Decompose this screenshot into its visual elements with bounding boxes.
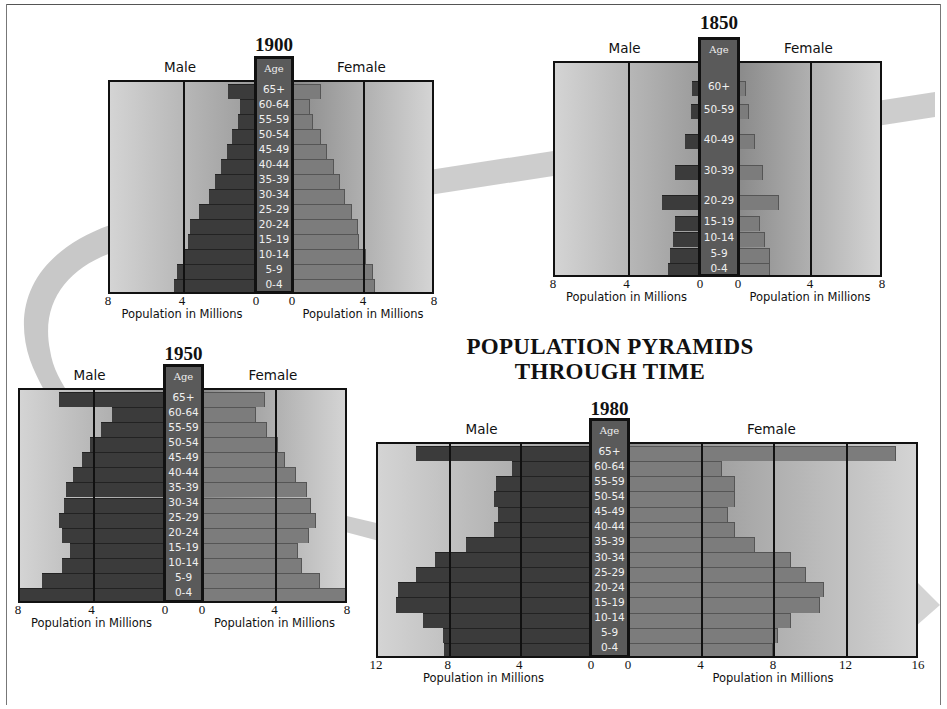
female-tick-label: 12: [839, 657, 852, 673]
female-tick-label: 4: [697, 657, 704, 673]
age-group-label: 40-44: [592, 520, 627, 532]
male-gridline: [93, 390, 95, 601]
age-column: Age65+60-6455-5950-5445-4940-4435-3930-3…: [163, 364, 204, 603]
female-bar: [628, 613, 791, 628]
age-group-label: 10-14: [592, 611, 627, 623]
female-header: Female: [784, 40, 833, 56]
age-group-label: 40-44: [166, 466, 201, 478]
pyramid-year-title: 1850: [680, 12, 758, 34]
female-bar: [202, 422, 267, 437]
male-axis-title: Population in Millions: [566, 290, 687, 304]
age-group-label: 15-19: [701, 215, 737, 227]
female-bar: [738, 216, 760, 231]
male-axis-title: Population in Millions: [423, 671, 544, 685]
female-gridline: [701, 444, 703, 656]
male-bar: [64, 498, 167, 513]
age-group-label: 65+: [166, 391, 201, 403]
female-tick-label: 16: [912, 657, 925, 673]
female-tick-label: 0: [625, 657, 632, 673]
male-bar: [496, 476, 593, 491]
male-bar: [90, 437, 167, 452]
age-group-label: 15-19: [257, 233, 291, 245]
age-group-label: 10-14: [257, 248, 291, 260]
female-bar: [628, 537, 755, 552]
male-bar: [184, 249, 258, 264]
male-bar: [435, 552, 593, 567]
male-bar: [42, 573, 167, 588]
pyramid-year-title: 1900: [236, 34, 312, 56]
age-group-label: 40-49: [701, 133, 737, 145]
male-plot-area: [108, 80, 258, 294]
male-header: Male: [164, 59, 196, 75]
male-axis-title: Population in Millions: [31, 616, 152, 630]
female-plot-area: [626, 442, 918, 658]
male-bar: [494, 491, 593, 506]
male-bar: [66, 482, 167, 497]
age-group-label: 50-54: [166, 436, 201, 448]
male-bar: [62, 558, 167, 573]
age-group-label: 40-44: [257, 158, 291, 170]
female-bar: [628, 461, 722, 476]
male-bar: [190, 219, 258, 234]
female-bar: [292, 84, 321, 99]
age-group-label: 60-64: [592, 460, 627, 472]
male-gridline: [628, 63, 630, 275]
female-bar: [202, 543, 298, 558]
age-group-label: 5-9: [701, 247, 737, 259]
male-bar: [188, 234, 258, 249]
male-plot-area: [18, 388, 167, 603]
male-header: Male: [74, 367, 106, 383]
female-bar: [202, 498, 311, 513]
age-group-label: 25-29: [166, 511, 201, 523]
age-group-label: 35-39: [166, 481, 201, 493]
female-bar: [628, 491, 735, 506]
age-group-label: 55-59: [257, 113, 291, 125]
female-bar: [628, 507, 728, 522]
male-tick-label: 12: [370, 657, 383, 673]
female-axis-title: Population in Millions: [749, 290, 870, 304]
male-bar: [177, 264, 258, 279]
female-tick-label: 0: [735, 276, 742, 292]
female-gridline: [810, 63, 812, 275]
age-group-label: 20-24: [166, 526, 201, 538]
male-header: Male: [466, 421, 498, 437]
female-bar: [202, 437, 278, 452]
age-group-label: 5-9: [592, 626, 627, 638]
female-axis-title: Population in Millions: [302, 307, 423, 321]
male-bar: [59, 513, 167, 528]
female-bar: [628, 582, 824, 597]
male-tick-label: 0: [162, 602, 169, 618]
female-bar: [738, 248, 770, 263]
age-header: Age: [592, 425, 627, 436]
age-group-label: 60-64: [257, 98, 291, 110]
age-group-label: 5-9: [166, 571, 201, 583]
age-group-label: 55-59: [166, 421, 201, 433]
male-header: Male: [609, 40, 641, 56]
female-bar: [292, 114, 313, 129]
female-bar: [738, 263, 770, 277]
female-bar: [202, 573, 320, 588]
age-group-label: 15-19: [166, 541, 201, 553]
female-plot-area: [200, 388, 347, 603]
female-bar: [292, 234, 359, 249]
female-bar: [628, 476, 735, 491]
age-group-label: 45-49: [166, 451, 201, 463]
male-plot-area: [553, 61, 702, 277]
female-axis-title: Population in Millions: [712, 671, 833, 685]
age-group-label: 35-39: [257, 173, 291, 185]
age-group-label: 45-49: [257, 143, 291, 155]
female-bar: [628, 446, 896, 461]
age-group-label: 35-39: [592, 535, 627, 547]
male-bar: [662, 195, 702, 210]
male-bar: [498, 507, 593, 522]
male-tick-label: 8: [15, 602, 22, 618]
age-group-label: 65+: [257, 83, 291, 95]
male-bar: [416, 567, 593, 582]
male-bar: [668, 263, 702, 277]
female-bar: [628, 597, 820, 612]
age-group-label: 60-64: [166, 406, 201, 418]
female-bar: [292, 99, 310, 114]
female-bar: [202, 513, 316, 528]
male-bar: [466, 537, 593, 552]
male-bar: [73, 467, 167, 482]
